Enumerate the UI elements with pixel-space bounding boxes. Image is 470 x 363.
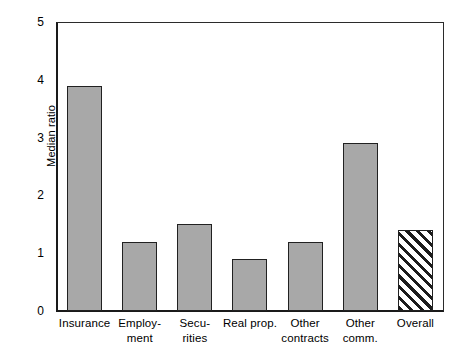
x-axis-label-line: Secu- (167, 316, 222, 331)
x-axis-label-line: Employ- (112, 316, 167, 331)
x-axis-label-line: Real prop. (222, 316, 277, 331)
x-axis-label-line: Overall (388, 316, 443, 331)
x-axis-labels: InsuranceEmploy-mentSecu-ritiesReal prop… (57, 316, 443, 358)
bar-slot (112, 22, 167, 311)
bar-slot (57, 22, 112, 311)
y-axis-tick-label: 4 (26, 74, 44, 86)
y-axis-tick-label: 2 (26, 189, 44, 201)
x-axis-label-securities: Secu-rities (167, 316, 222, 345)
x-axis-label-line: Other (278, 316, 333, 331)
bar-insurance (67, 86, 102, 311)
x-axis-label-overall: Overall (388, 316, 443, 331)
bar-real-prop (232, 259, 267, 311)
y-axis-tick-label: 0 (26, 305, 44, 317)
bar-slot (167, 22, 222, 311)
y-axis-tick-label: 1 (26, 247, 44, 259)
y-axis-tick-label: 5 (26, 16, 44, 28)
x-axis-label-insurance: Insurance (57, 316, 112, 331)
y-axis-tick-label: 3 (26, 132, 44, 144)
x-axis-label-line: rities (167, 331, 222, 346)
bar-slot (222, 22, 277, 311)
x-axis-label-line: comm. (333, 331, 388, 346)
x-axis-label-line: ment (112, 331, 167, 346)
bar-other-comm (343, 143, 378, 311)
bar-employment (122, 242, 157, 311)
bar-slot (333, 22, 388, 311)
bar-slot (388, 22, 443, 311)
bars-container (57, 22, 443, 311)
x-axis-label-line: Insurance (57, 316, 112, 331)
bar-securities (177, 224, 212, 311)
bar-chart-figure: Median ratio 012345 InsuranceEmploy-ment… (0, 0, 470, 363)
bar-slot (278, 22, 333, 311)
x-axis-label-real-prop: Real prop. (222, 316, 277, 331)
bar-overall (398, 230, 433, 311)
x-axis-label-other-comm: Othercomm. (333, 316, 388, 345)
x-axis-label-employment: Employ-ment (112, 316, 167, 345)
x-axis-label-line: Other (333, 316, 388, 331)
bar-other-contracts (288, 242, 323, 311)
x-axis-label-line: contracts (278, 331, 333, 346)
x-axis-label-other-contracts: Othercontracts (278, 316, 333, 345)
